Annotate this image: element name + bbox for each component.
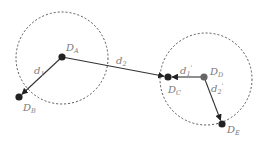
distance-diagram: DADBDCDDDEd1d2d1'd2' — [0, 0, 267, 142]
node-label-DD: DD — [209, 66, 224, 79]
node-label-DA: DA — [65, 42, 79, 55]
node-DA — [58, 53, 65, 60]
labels: DADBDCDDDEd1d2d1'd2' — [22, 42, 240, 137]
edge-d2 — [62, 57, 164, 76]
node-DE — [218, 120, 225, 127]
node-DD — [200, 73, 207, 80]
edge-label-d1p: d1' — [180, 64, 193, 78]
node-DC — [164, 73, 171, 80]
edge-label-d2: d2 — [116, 55, 127, 68]
node-label-DC: DC — [167, 84, 181, 97]
node-label-DB: DB — [22, 102, 36, 115]
node-label-DE: DE — [226, 124, 240, 137]
edge-label-d2p: d2' — [211, 82, 224, 96]
edge-label-d1: d1 — [34, 65, 45, 78]
node-DB — [15, 93, 22, 100]
